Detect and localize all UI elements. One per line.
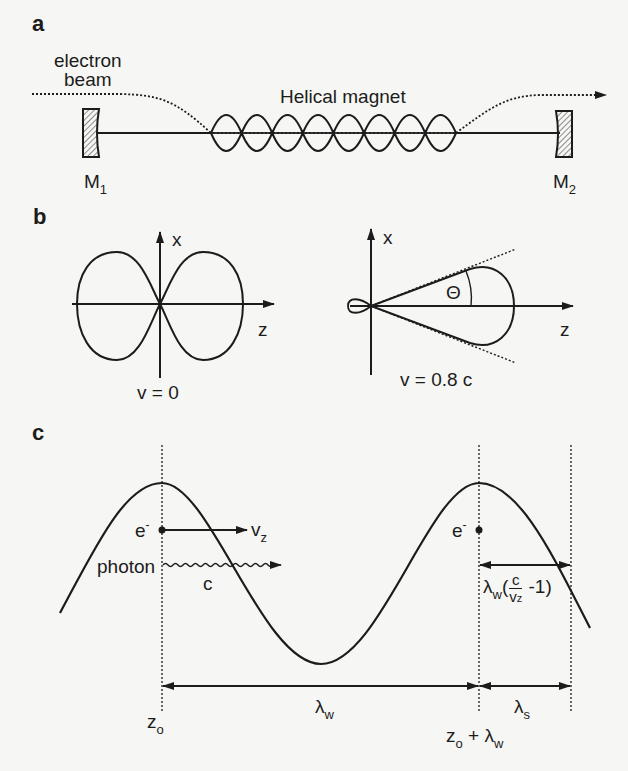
x-axis-label-left: x xyxy=(172,230,182,249)
caption-v-0-8c: v = 0.8 c xyxy=(400,370,472,389)
theta-arc xyxy=(466,271,471,306)
electron-label-left: e- xyxy=(135,521,150,540)
z0-label: zo xyxy=(147,712,164,731)
panel-a-letter: a xyxy=(32,13,44,35)
z0-plus-lambda-label: zo + λw xyxy=(446,726,503,745)
helical-magnet-bottom xyxy=(211,133,456,151)
vz-label: vz xyxy=(251,520,267,539)
photon-speed-label: c xyxy=(203,574,213,593)
z-axis-label-right: z xyxy=(560,320,570,339)
theta-label: Θ xyxy=(446,283,461,302)
electron-beam-label-line1: electron xyxy=(54,51,122,70)
z-axis-label-left: z xyxy=(258,320,268,339)
photon-label: photon xyxy=(97,557,155,576)
electron-beam-out xyxy=(456,95,606,133)
fel-figure: a electron beam Helical magnet M1 M2 b x… xyxy=(0,0,628,771)
electron-beam-label-line2: beam xyxy=(64,70,112,89)
electron-dot-left xyxy=(159,527,166,534)
mirror-m1-icon xyxy=(83,109,99,157)
photon-wave-arrow xyxy=(163,564,281,567)
mirror-m2-icon xyxy=(556,111,572,157)
x-axis-label-right: x xyxy=(383,228,393,247)
emitted-wavelength-label: λs xyxy=(514,697,530,716)
electron-beam-in xyxy=(32,94,211,133)
caption-v-0: v = 0 xyxy=(137,383,179,402)
panel-c-letter: c xyxy=(32,422,44,444)
mirror-m2-label: M2 xyxy=(553,172,576,191)
wiggler-period-label: λw xyxy=(315,697,334,716)
figure-drawing xyxy=(0,0,628,771)
electron-dot-right xyxy=(476,527,483,534)
helical-magnet-top xyxy=(211,115,456,133)
electron-label-right: e- xyxy=(452,521,467,540)
mirror-m1-label: M1 xyxy=(84,172,107,191)
panel-b-letter: b xyxy=(33,206,46,228)
panel-b-left-drawing xyxy=(72,232,274,378)
slip-distance-label: λw(cvz -1) xyxy=(483,572,552,605)
helical-magnet-label: Helical magnet xyxy=(280,87,406,106)
